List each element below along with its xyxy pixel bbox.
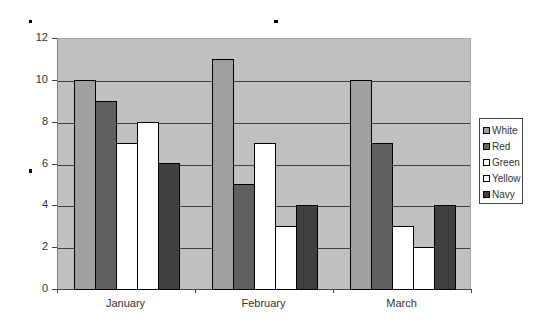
bar-red-january	[95, 101, 117, 290]
legend-label: Yellow	[492, 173, 521, 184]
y-tick	[52, 80, 57, 81]
marker-dot	[29, 20, 32, 23]
legend-item-white: White	[483, 122, 522, 138]
bar-navy-january	[158, 163, 180, 290]
legend-swatch	[483, 159, 490, 166]
x-tick	[333, 289, 334, 293]
gridline	[57, 81, 470, 82]
x-tick	[195, 289, 196, 293]
y-tick-label: 12	[8, 31, 48, 43]
bar-white-january	[74, 80, 96, 290]
y-tick-label: 4	[8, 198, 48, 210]
x-tick-label: March	[333, 297, 470, 309]
y-tick	[52, 247, 57, 248]
legend-item-green: Green	[483, 154, 522, 170]
gridline	[57, 123, 470, 124]
legend-swatch	[483, 143, 490, 150]
legend-label: Green	[492, 157, 520, 168]
x-tick-label: February	[195, 297, 332, 309]
y-tick-label: 6	[8, 157, 48, 169]
legend: WhiteRedGreenYellowNavy	[479, 118, 523, 204]
legend-swatch	[483, 175, 490, 182]
legend-label: White	[492, 125, 518, 136]
bar-white-february	[212, 59, 234, 290]
x-tick	[471, 289, 472, 293]
y-tick-label: 8	[8, 115, 48, 127]
y-tick	[52, 205, 57, 206]
legend-label: Red	[492, 141, 510, 152]
legend-item-red: Red	[483, 138, 522, 154]
y-tick-label: 2	[8, 240, 48, 252]
bar-white-march	[350, 80, 372, 290]
bar-green-january	[116, 143, 138, 290]
y-tick	[52, 164, 57, 165]
legend-item-navy: Navy	[483, 186, 522, 202]
bar-yellow-march	[413, 247, 435, 290]
bar-navy-february	[296, 205, 318, 290]
marker-dot	[29, 169, 32, 173]
y-tick-label: 10	[8, 73, 48, 85]
bar-red-february	[233, 184, 255, 290]
x-tick-label: January	[57, 297, 194, 309]
bar-yellow-february	[275, 226, 297, 290]
y-tick	[52, 38, 57, 39]
legend-item-yellow: Yellow	[483, 170, 522, 186]
x-tick	[57, 289, 58, 293]
bar-green-february	[254, 143, 276, 290]
bar-yellow-january	[137, 122, 159, 290]
y-axis	[57, 38, 58, 289]
y-tick	[52, 122, 57, 123]
legend-swatch	[483, 127, 490, 134]
bar-navy-march	[434, 205, 456, 290]
bar-green-march	[392, 226, 414, 290]
legend-label: Navy	[492, 189, 515, 200]
y-tick-label: 0	[8, 282, 48, 294]
marker-dot	[274, 20, 278, 23]
bar-red-march	[371, 143, 393, 290]
legend-swatch	[483, 191, 490, 198]
